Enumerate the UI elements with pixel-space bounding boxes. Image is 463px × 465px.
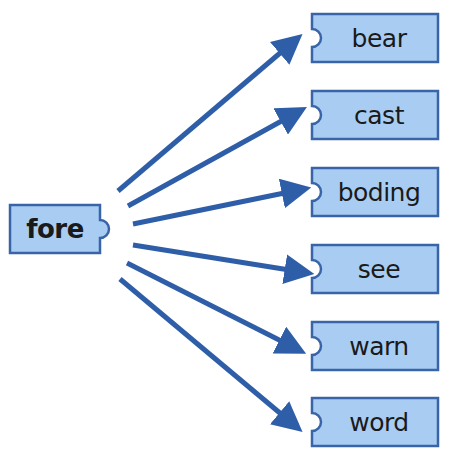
- arrow-2: [133, 190, 299, 224]
- suffix-word: word: [320, 398, 438, 446]
- arrows-group: [118, 42, 302, 424]
- suffix-bear: bear: [320, 14, 438, 62]
- suffix-cast: cast: [320, 91, 438, 139]
- suffix-warn: warn: [320, 322, 438, 370]
- arrow-3: [133, 245, 302, 272]
- suffix-boding: boding: [320, 168, 438, 216]
- arrow-0: [118, 42, 293, 191]
- suffix-see: see: [320, 245, 438, 293]
- root-word-fore: fore: [10, 205, 100, 253]
